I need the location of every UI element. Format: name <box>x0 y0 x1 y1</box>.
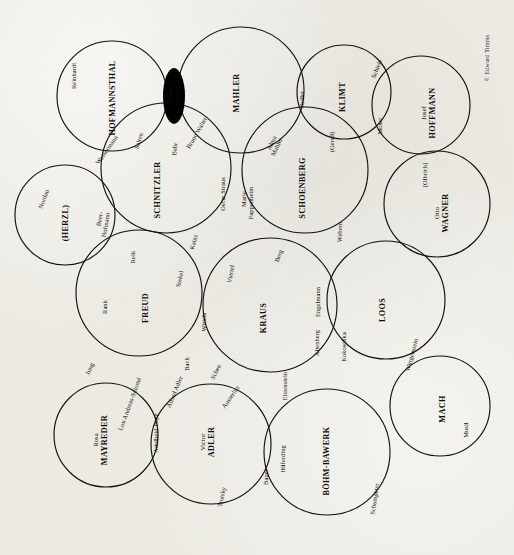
circle-label-schnitzler: SCHNITZLER <box>154 161 162 218</box>
intersection-label: Kokoschka <box>341 332 347 362</box>
circle-label-wagner: OttoWAGNER <box>434 194 450 233</box>
circle-label-mahler: MAHLER <box>233 74 241 113</box>
intersection-label: Pappenheim <box>248 187 254 220</box>
circle-label-name: BÖHM-BAWERK <box>322 427 331 496</box>
intersection-label: Altenberg <box>314 330 320 356</box>
circle-label-name: MAHLER <box>232 74 241 113</box>
circle-label-name: LOOS <box>378 298 387 322</box>
circle-label-name: KLIMT <box>338 82 347 112</box>
circle-label-name: MAYREDER <box>100 415 109 465</box>
circle-label-name: HOFMANNSTHAL <box>108 60 117 135</box>
circle-schnitzler <box>101 103 231 233</box>
circle-label-name: SCHNITZLER <box>153 161 162 218</box>
circle-label-klimt: KLIMT <box>339 82 347 112</box>
circle-label-name: MACH <box>438 395 447 422</box>
circle-label-name: FREUD <box>141 293 150 323</box>
intersection-label: Reinhardt <box>71 63 77 89</box>
intersection-label: Webern <box>336 222 343 243</box>
intersection-label: Reik <box>130 251 136 263</box>
circle-label-adler: VictorADLER <box>200 427 216 457</box>
circle-label-mach: MACH <box>439 395 447 422</box>
intersection-label: Roller <box>299 91 305 108</box>
intersection-label: Moser <box>377 118 383 135</box>
intersection-label: Bauer <box>263 469 269 485</box>
intersection-label: Bahr <box>171 142 178 155</box>
circle-label-herzl: (HERZL) <box>62 205 70 242</box>
circle-label-name: WAGNER <box>441 194 450 233</box>
circle-label-loos: LOOS <box>379 298 387 322</box>
circle-label-name: KRAUS <box>259 303 268 333</box>
circle-label-freud: FREUD <box>142 293 150 323</box>
circle-label-hoffmann: JosefHOFFMANN <box>421 87 437 138</box>
diagram-canvas: HOFMANNSTHALMAHLERKLIMTJosefHOFFMANNSCHN… <box>0 0 514 555</box>
circle-label-kraus: KRAUS <box>260 303 268 333</box>
intersection-label: Musil <box>463 422 469 437</box>
copyright-credit: © Edward Timms <box>484 35 490 81</box>
intersection-label: Hilferding <box>280 445 286 473</box>
intersection-label: Engelmann <box>315 287 321 317</box>
circle-freud <box>76 230 202 356</box>
intersection-label: (Gerstl) <box>329 132 335 153</box>
circle-label-name: (HERZL) <box>61 205 70 242</box>
intersection-label: Adelheid Popp <box>153 413 159 452</box>
circle-label-name: HOFFMANN <box>428 87 437 138</box>
intersection-label: Strauss <box>174 86 180 105</box>
circle-label-mayreder: RosaMAYREDER <box>93 415 109 465</box>
intersection-label: [Olbrich] <box>422 163 428 188</box>
circle-label-hofmannsthal: HOFMANNSTHAL <box>109 60 117 135</box>
circle-label-schoenberg: SCHOENBERG <box>299 157 307 218</box>
circle-label-b-hm-bawerk: BÖHM-BAWERK <box>323 427 331 496</box>
intersection-label: Ehrenstein <box>282 372 288 400</box>
circle-label-name: ADLER <box>207 427 216 457</box>
intersection-label: Bach <box>184 357 190 371</box>
intersection-label: Oscar Straus <box>220 177 226 211</box>
circle-label-name: SCHOENBERG <box>298 157 307 218</box>
intersection-label: Wittels <box>201 313 207 332</box>
intersection-label: Rank <box>102 300 108 314</box>
